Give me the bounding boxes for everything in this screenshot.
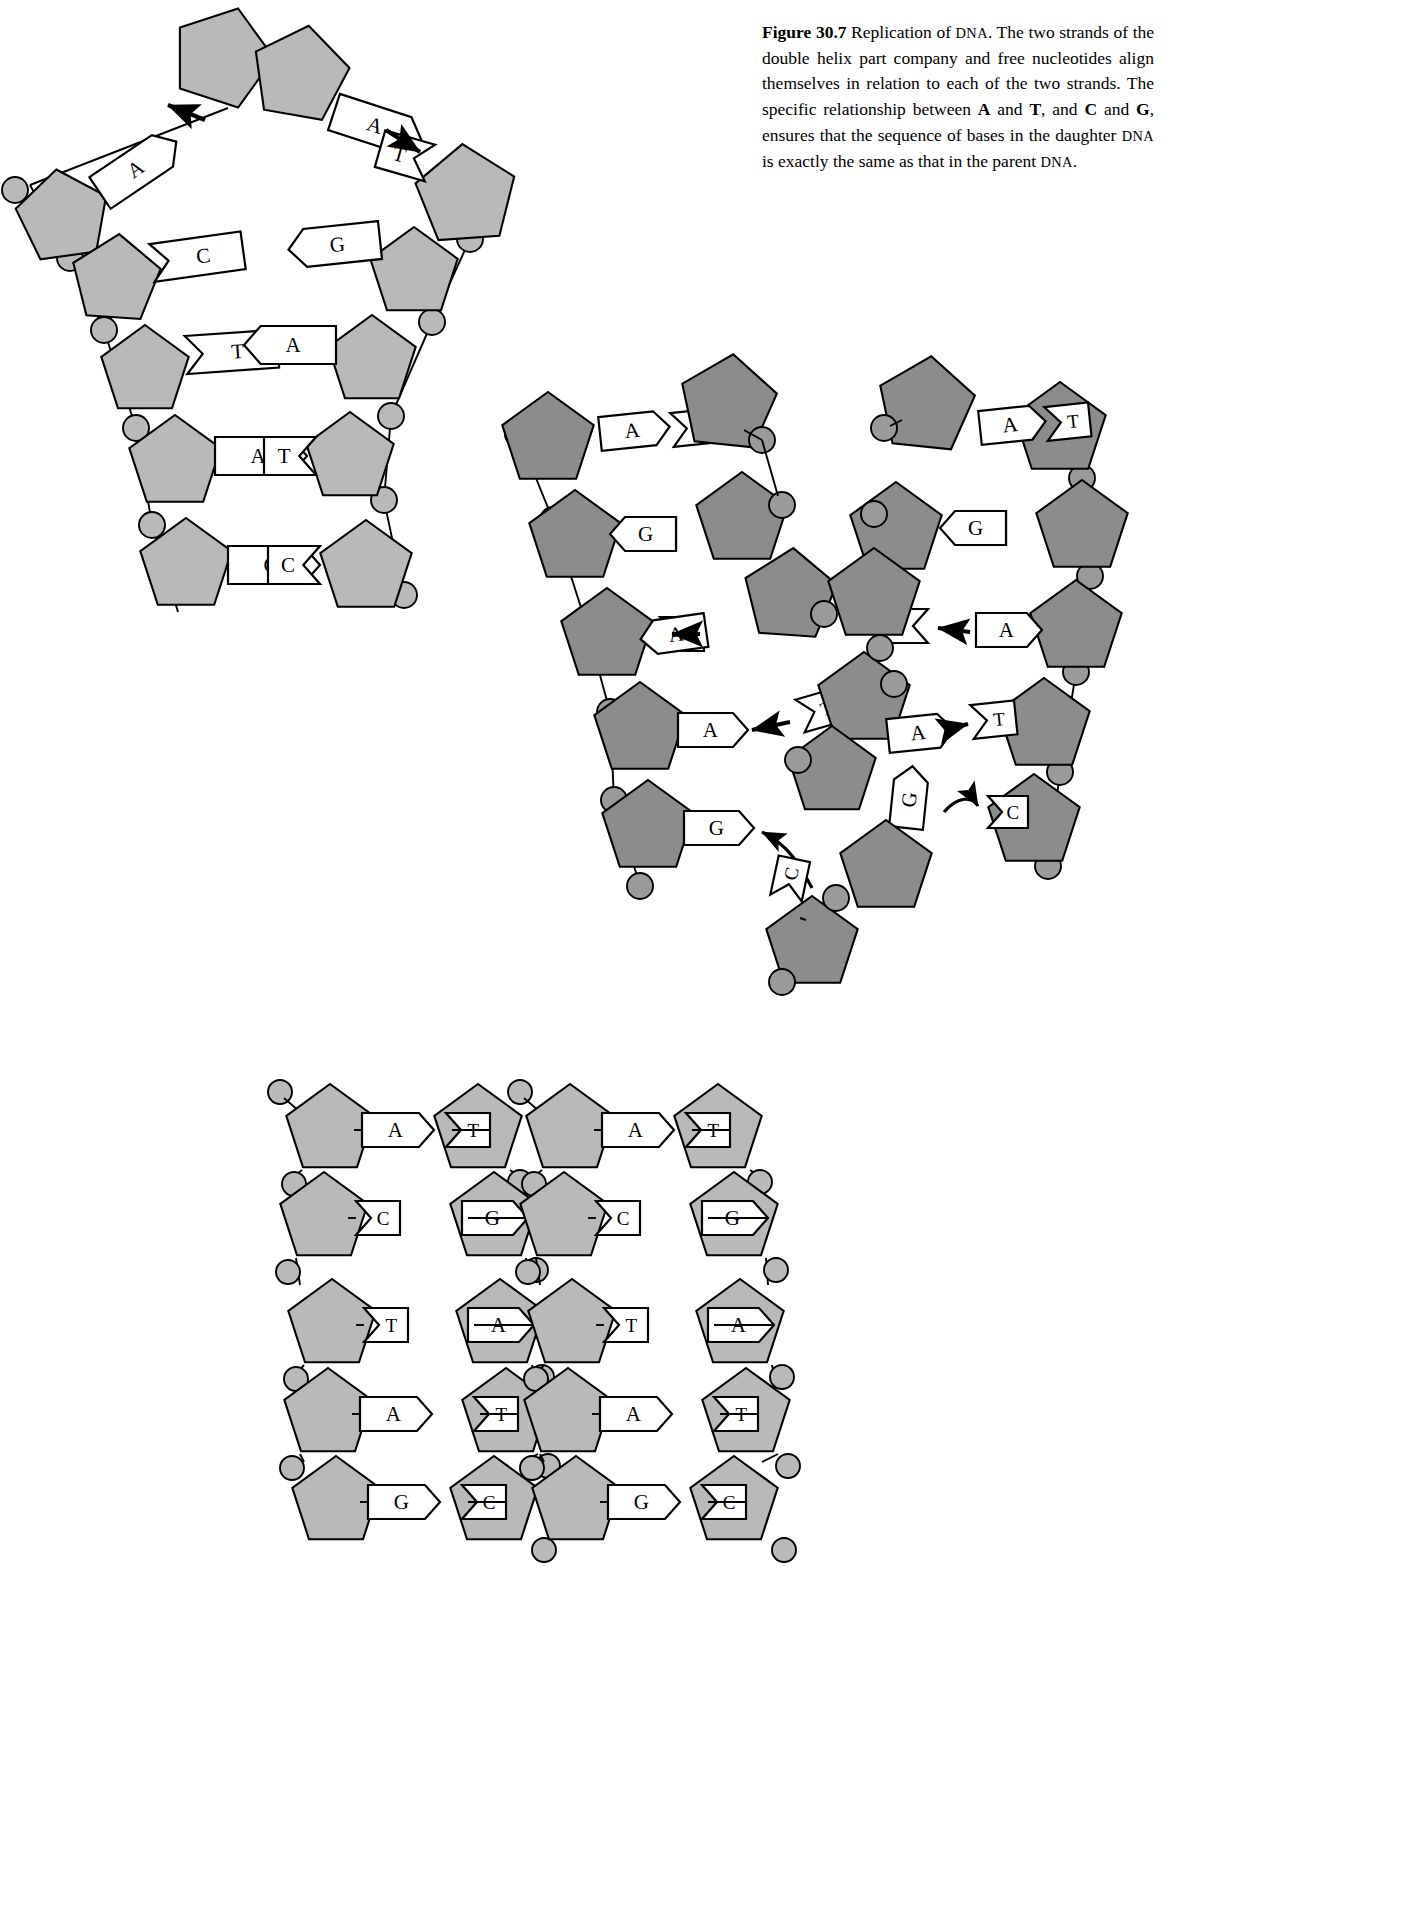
free-nucleotide-arrow-left-2 [752,722,790,730]
fork-left-base-A-0: A [598,411,669,451]
base-left-C-2: C [149,231,245,281]
phosphate-daughter-left-m1 [276,1260,300,1284]
base-letter-G: G [328,232,346,257]
base-left-A-1: A [89,135,176,209]
sugar-fork-right-1 [1036,480,1127,567]
daughter-backbone-right-m2 [762,1454,778,1462]
base-letter-C: C [617,1208,630,1229]
daughter-base-left-m2-G-4: G [608,1485,680,1519]
phosphate-free-right-4 [823,885,849,911]
fork-left-base-A-3: A [678,713,748,747]
sugar-daughter-left-m2-2 [528,1279,615,1362]
base-letter-A: A [628,1118,644,1142]
base-letter-C: C [1007,802,1020,823]
base-letter-T: T [278,444,291,468]
fork-left-base-G-4: G [684,811,754,845]
phosphate-new-right-1 [861,501,887,527]
panel-parent-dna: ACTAGATGATC [2,9,514,613]
sugar-fork-right-2 [1030,580,1121,667]
phosphate-daughter-left-cap-m2 [508,1080,532,1104]
daughter-base-left-m1-A-3: A [360,1397,432,1431]
sugar-fork-left-2 [561,588,652,675]
base-letter-T: T [385,1315,397,1336]
base-right-G-2: G [289,221,383,267]
base-letter-G: G [968,516,983,540]
daughter-base-left-m1-G-4: G [368,1485,440,1519]
free-nucleotide-arrow-right-2 [952,724,968,728]
phosphate-new-right-0 [871,415,897,441]
phosphate-daughter-right-m2 [764,1258,788,1282]
sugar-right-5 [320,520,411,607]
base-letter-G: G [896,791,921,809]
base-letter-A: A [626,1402,642,1426]
base-letter-A: A [285,333,301,357]
sugar-daughter-left-m2-0 [526,1084,613,1167]
base-letter-G: G [638,522,653,546]
phosphate-daughter-left-m2 [516,1260,540,1284]
phosphate-daughter-right-end-m2 [772,1538,796,1562]
phosphate-right [378,403,404,429]
base-letter-T: T [230,339,245,364]
phosphate-right [419,309,445,335]
phosphate-free-left-2 [811,601,837,627]
sugar-daughter-left-m1-0 [286,1084,373,1167]
base-letter-A: A [388,1118,404,1142]
base-letter-C: C [281,553,295,577]
sugar-daughter-left-m1-2 [288,1279,375,1362]
base-letter-G: G [709,816,724,840]
free-nucleotide-arrow-right-1 [938,628,970,632]
phosphate-daughter-right-m2 [776,1454,800,1478]
sugar-fork-left-0 [502,392,593,479]
phosphate-daughter-right-m2 [770,1365,794,1389]
fork-right-base-T-3: T [970,701,1017,739]
panel-replication-fork: ATCGTAATGCATCGTAATGC [502,354,1127,995]
phosphate-free-right-2 [867,635,893,661]
fork-right-base-A-2: A [976,613,1042,647]
phosphate-left [139,512,165,538]
sugar-fork-left-1 [529,490,620,577]
fork-right-base-G-1: G [940,511,1006,545]
sugar-right-3 [328,315,415,398]
phosphate-left [91,317,117,343]
fork-free-base-C-4: C [770,856,810,902]
base-letter-C: C [377,1208,390,1229]
base-letter-G: G [634,1490,649,1514]
base-letter-T: T [625,1315,637,1336]
sugar-right-1 [416,144,515,240]
phosphate-free-left-3b [785,747,811,773]
phosphate-free-left-3 [881,671,907,697]
phosphate-fork-left [627,873,653,899]
diagram-canvas: ACTAGATGATC ATCGTAATGCATCGTAATGC ATCGTAA… [0,0,1426,1907]
phosphate-daughter-left-m2 [520,1456,544,1480]
sugar-daughter-left-m1-4 [292,1456,379,1539]
phosphate-daughter-left-m1 [280,1456,304,1480]
phosphate-free-left-4 [769,969,795,995]
daughter-base-left-m2-A-3: A [600,1397,672,1431]
fork-free-base-G-right: G [889,766,928,830]
base-letter-A: A [999,618,1015,642]
free-nucleotide-curve-right [944,799,978,812]
sugar-free-right-4 [840,820,931,907]
fork-right-base-A-3: A [886,714,953,753]
daughter-base-left-m1-A-0: A [362,1113,434,1147]
sugar-fork-left-3 [594,682,685,769]
base-letter-A: A [386,1402,402,1426]
base-letter-G: G [394,1490,409,1514]
phosphate-new-left-1 [769,492,795,518]
panel-daughter-dna: ATCGTAATGCATCGTAATGC [268,1080,800,1562]
fork-left-base-G-1: G [610,517,676,551]
base-letter-A: A [703,718,719,742]
base-right-A-3: A [244,326,336,364]
phosphate-left [2,177,28,203]
figure-dna-replication: Figure 30.7 Replication of DNA. The two … [0,0,1426,1907]
phosphate-daughter-left-cap-m1 [268,1080,292,1104]
daughter-base-left-m2-A-0: A [602,1113,674,1147]
phosphate-daughter-right-end-m1 [532,1538,556,1562]
strand-separation-arrow [168,105,205,120]
